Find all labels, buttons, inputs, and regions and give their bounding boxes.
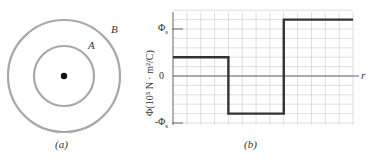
label-b: B bbox=[111, 23, 118, 35]
ytick-zero: 0 bbox=[138, 70, 164, 81]
caption-a: (a) bbox=[55, 138, 68, 150]
x-axis-label: r bbox=[361, 69, 365, 81]
ytick-neg-phi-s: -Φs bbox=[142, 116, 168, 130]
center-charge bbox=[61, 73, 67, 79]
concentric-shells-diagram bbox=[0, 0, 140, 160]
ytick-phi-s: Φs bbox=[142, 22, 168, 36]
figure-a: A B (a) bbox=[0, 0, 140, 160]
figure-b: Φ(10⁵ N · m²/C) Φs 0 -Φs r (b) bbox=[140, 0, 375, 160]
flux-step-plot bbox=[140, 0, 375, 160]
y-axis-label: Φ(10⁵ N · m²/C) bbox=[144, 50, 155, 116]
label-a: A bbox=[88, 39, 95, 51]
caption-b: (b) bbox=[244, 138, 257, 150]
